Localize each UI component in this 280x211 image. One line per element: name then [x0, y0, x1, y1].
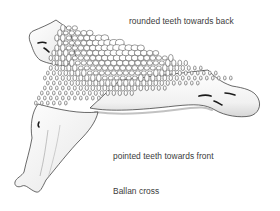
left-horn-foramen-1 — [38, 42, 46, 43]
figure-caption: Ballan cross — [113, 186, 159, 196]
pharyngeal-bone-illustration — [0, 0, 280, 211]
right-horn-foramen-1 — [199, 95, 211, 96]
lower-limb — [15, 104, 98, 192]
lower-limb-foramen — [38, 122, 39, 127]
label-pointed-teeth: pointed teeth towards front — [113, 151, 214, 161]
label-rounded-teeth: rounded teeth towards back — [129, 16, 234, 26]
